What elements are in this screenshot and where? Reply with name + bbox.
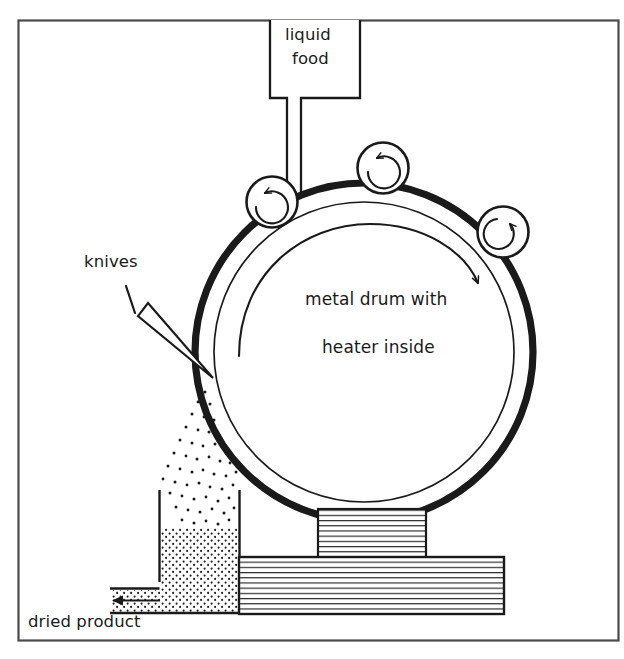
hopper-product-fill — [160, 528, 239, 612]
drum-dryer-diagram — [0, 0, 624, 659]
diagram-canvas: liquid food knives metal drum with heate… — [0, 0, 624, 659]
feed-label-line1: liquid — [285, 26, 331, 43]
drum-pedestal — [318, 509, 426, 558]
machine-base — [239, 557, 504, 614]
spreader-roller-left — [247, 177, 298, 228]
knives-label: knives — [84, 253, 138, 270]
output-label: dried product — [28, 613, 140, 630]
knives-leader-tick — [126, 286, 135, 313]
spreader-roller-right — [478, 207, 529, 258]
spreader-roller-middle — [358, 143, 409, 194]
feed-label-line2: food — [292, 50, 329, 67]
feed-hopper-box — [270, 20, 360, 198]
drum-label-line1: metal drum with — [305, 291, 447, 309]
drum-label-line2: heater inside — [322, 339, 435, 357]
